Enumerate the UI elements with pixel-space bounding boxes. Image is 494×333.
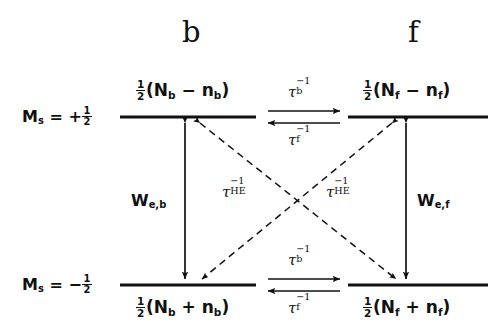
w-subscript-b: e,b	[149, 199, 167, 210]
rate-label-w-e-b: We,b	[131, 193, 166, 209]
ms-sign-up: +	[68, 107, 81, 126]
population-top-f-sub1: f	[395, 89, 400, 101]
rate-label-w-e-f: We,f	[417, 193, 449, 209]
population-top-b-open: (N	[146, 80, 168, 100]
tau-f-bottom-affixes: −1f	[296, 298, 319, 313]
population-bottom-b-half: 12	[136, 296, 146, 319]
rate-label-tau-he-left: τ−1HE	[222, 182, 262, 200]
population-top-f-half: 12	[363, 79, 373, 102]
tau-he-left-sup: −1	[230, 176, 244, 186]
tau-he-right-affixes: −1HE	[334, 182, 366, 197]
population-bottom-f-close: )	[442, 297, 450, 317]
w-symbol-f: W	[417, 191, 435, 210]
ms-symbol-down: M	[22, 275, 38, 294]
population-bottom-b-var: n	[202, 297, 214, 317]
population-bottom-f-open: (N	[373, 297, 395, 317]
population-bottom-f-sub1: f	[395, 306, 400, 318]
tau-f-bottom-sub: f	[296, 302, 300, 312]
spin-state-label-down: Ms = −12	[22, 274, 92, 295]
tau-f-top-sub: f	[296, 134, 300, 144]
rate-label-tau-f-bottom: τ−1f	[288, 298, 319, 316]
tau-he-right-sub: HE	[334, 186, 349, 196]
tau-b-top-sub: b	[296, 86, 302, 96]
tau-f-top-affixes: −1f	[296, 130, 319, 145]
tau-f-top-sup: −1	[296, 124, 310, 134]
ms-subscript-up: s	[38, 115, 44, 126]
population-top-b-close: )	[221, 80, 229, 100]
population-bottom-b-operator: +	[182, 297, 196, 317]
tau-b-bottom-sup: −1	[296, 244, 310, 254]
tau-b-top-affixes: −1b	[296, 82, 319, 97]
tau-he-right-sup: −1	[334, 176, 348, 186]
ms-symbol-up: M	[22, 107, 38, 126]
w-subscript-f: e,f	[435, 199, 450, 210]
tau-f-bottom-sup: −1	[296, 292, 310, 302]
rate-label-tau-f-top: τ−1f	[288, 130, 319, 148]
ms-subscript-down: s	[38, 283, 44, 294]
population-top-b: 12(Nb − nb)	[135, 79, 229, 102]
rate-label-tau-b-top: τ−1b	[288, 82, 319, 100]
population-top-b-operator: −	[182, 80, 196, 100]
population-top-f-var: n	[426, 80, 438, 100]
population-bottom-b-open: (N	[146, 297, 168, 317]
ms-sign-down: −	[68, 275, 81, 294]
column-header-f: f	[408, 18, 419, 47]
w-symbol-b: W	[131, 191, 149, 210]
population-bottom-b-close: )	[221, 297, 229, 317]
energy-level-diagram: b f Ms = +12 Ms = −12 12(Nb − nb) 12(Nf …	[0, 0, 494, 333]
spin-state-label-up: Ms = +12	[22, 106, 92, 127]
population-bottom-b-sub1: b	[168, 306, 176, 318]
rate-label-tau-he-right: τ−1HE	[326, 182, 366, 200]
population-bottom-f-operator: +	[406, 297, 420, 317]
population-top-f-open: (N	[373, 80, 395, 100]
rate-label-tau-b-bottom: τ−1b	[288, 250, 319, 268]
ms-equals-down: =	[49, 275, 62, 294]
tau-b-bottom-affixes: −1b	[296, 250, 319, 265]
tau-he-left-sub: HE	[230, 186, 245, 196]
column-header-b: b	[182, 18, 201, 47]
tau-symbol-he-right: τ	[326, 183, 334, 201]
tau-b-top-sup: −1	[296, 76, 310, 86]
population-top-f-operator: −	[406, 80, 420, 100]
tau-symbol-b-top: τ	[288, 83, 296, 101]
tau-symbol-he-left: τ	[222, 183, 230, 201]
ms-equals-up: =	[49, 107, 62, 126]
population-top-b-var: n	[202, 80, 214, 100]
tau-symbol-f-bottom: τ	[288, 299, 296, 317]
population-bottom-f-var: n	[426, 297, 438, 317]
tau-symbol-b-bottom: τ	[288, 251, 296, 269]
ms-fraction-up: 12	[82, 106, 91, 127]
tau-b-bottom-sub: b	[296, 254, 302, 264]
ms-fraction-down: 12	[82, 274, 91, 295]
population-top-b-half: 12	[136, 79, 146, 102]
population-top-b-sub1: b	[168, 89, 176, 101]
population-bottom-f: 12(Nf + nf)	[362, 296, 450, 319]
tau-he-left-affixes: −1HE	[230, 182, 262, 197]
population-top-f: 12(Nf − nf)	[362, 79, 450, 102]
population-top-f-close: )	[442, 80, 450, 100]
tau-symbol-f-top: τ	[288, 131, 296, 149]
population-bottom-f-half: 12	[363, 296, 373, 319]
population-bottom-b: 12(Nb + nb)	[135, 296, 229, 319]
